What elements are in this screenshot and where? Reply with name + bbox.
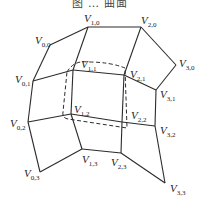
control-mesh-diagram: V0,0V1,0V2,0V3,0V0,1V1,1V2,1V3,1V0,2V1,2…: [0, 0, 200, 200]
mesh-edge: [40, 149, 82, 172]
vertex-labels: V0,0V1,0V2,0V3,0V0,1V1,1V2,1V3,1V0,2V1,2…: [10, 12, 195, 197]
mesh-edges: [28, 27, 176, 183]
vertex-label: V0,1: [15, 73, 31, 88]
vertex-label: V0,3: [24, 167, 40, 182]
vertex-label: V2,3: [111, 156, 127, 171]
vertex-label: V3,1: [160, 88, 176, 103]
mesh-edge: [141, 27, 176, 65]
mesh-edge: [33, 45, 50, 81]
vertex-label: V1,2: [74, 103, 90, 118]
vertex-label: V2,0: [141, 14, 157, 29]
vertex-label: V3,3: [170, 182, 186, 197]
vertex-label: V3,2: [160, 124, 176, 139]
vertex-label: V0,2: [10, 117, 26, 132]
vertex-label: V1,0: [84, 12, 100, 27]
mesh-edge: [156, 65, 176, 90]
vertex-label: V2,1: [130, 68, 146, 83]
vertex-label: V2,2: [131, 109, 147, 124]
mesh-edge: [155, 90, 156, 126]
mesh-edge: [73, 70, 124, 75]
mesh-edge: [121, 153, 165, 183]
mesh-edge: [121, 122, 122, 153]
vertex-label: V3,0: [179, 57, 195, 72]
vertex-label: V0,0: [35, 34, 51, 49]
mesh-edge: [122, 75, 124, 122]
mesh-edge: [28, 122, 40, 172]
mesh-edge: [71, 70, 73, 114]
vertex-label: V1,3: [82, 153, 98, 168]
